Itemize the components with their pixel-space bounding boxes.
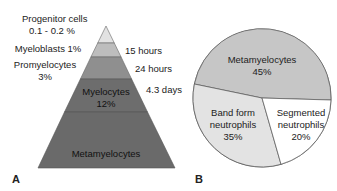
pyramid-layer-progenitor (98, 26, 115, 43)
pyramid-layer-metamyelocytes (38, 112, 175, 168)
label-promyelocytes-pct: 3% (10, 71, 80, 82)
panel-a-letter: A (12, 173, 20, 185)
label-progenitor-cells: Progenitor cells (22, 13, 82, 24)
label-myelocytes-pct: 12% (76, 98, 136, 109)
label-metamyelocytes: Metamyelocytes (66, 148, 146, 159)
label-myeloblasts: Myeloblasts 1% (8, 43, 88, 54)
pie-label-segmented-2: neutrophils (268, 119, 334, 130)
label-progenitor-pct: 0.1 - 0.2 % (22, 25, 82, 36)
panel-b-letter: B (195, 173, 203, 185)
pie-label-metamyelocytes: Metamyelocytes (222, 54, 302, 65)
pie-label-segmented: Segmented (268, 107, 334, 118)
label-promyelocytes: Promyelocytes (10, 59, 80, 70)
duration-4-3-days: 4.3 days (146, 84, 182, 95)
pie-label-band-form: Band form (198, 107, 268, 118)
duration-15-hours: 15 hours (125, 45, 162, 56)
pyramid-layer-myeloblasts (91, 43, 121, 57)
pyramid-layer-promyelocytes (80, 57, 131, 79)
pie-label-band-form-pct: 35% (198, 131, 268, 142)
pie-label-metamyelocytes-pct: 45% (222, 66, 302, 77)
pie-label-band-form-2: neutrophils (198, 119, 268, 130)
label-myelocytes: Myelocytes (76, 86, 136, 97)
pie-label-segmented-pct: 20% (268, 131, 334, 142)
duration-24-hours: 24 hours (135, 63, 172, 74)
